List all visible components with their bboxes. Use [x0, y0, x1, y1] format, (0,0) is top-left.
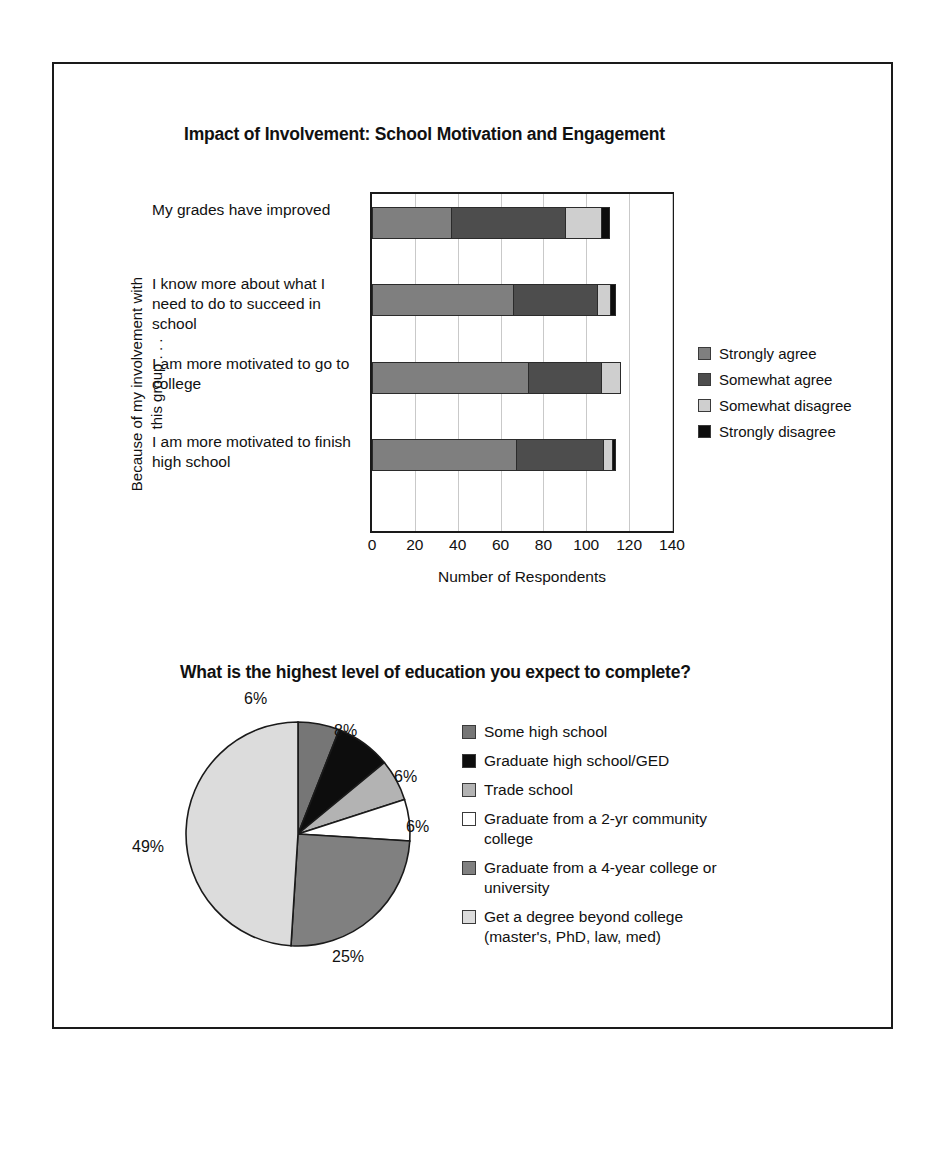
- bar-stack: [372, 362, 621, 394]
- legend-swatch-icon: [698, 425, 711, 438]
- legend-item-label: Some high school: [484, 722, 607, 742]
- pie-slice-label: 6%: [406, 818, 429, 836]
- bar-chart-plot-area: [370, 192, 674, 533]
- legend-item: Strongly agree: [698, 344, 888, 363]
- legend-swatch-icon: [698, 373, 711, 386]
- bar-segment: [372, 362, 528, 394]
- pie-chart-title: What is the highest level of education y…: [180, 662, 691, 683]
- bar-segment: [451, 207, 565, 239]
- bar-segment: [612, 439, 616, 471]
- legend-item-label: Strongly disagree: [719, 422, 836, 441]
- bar-chart-xaxis-title: Number of Respondents: [370, 568, 674, 586]
- bar-segment: [601, 207, 610, 239]
- legend-swatch-icon: [698, 347, 711, 360]
- bar-segment: [372, 439, 516, 471]
- legend-item: Somewhat agree: [698, 370, 888, 389]
- bar-category-label: I am more motivated to finish high schoo…: [152, 432, 362, 472]
- legend-item-label: Trade school: [484, 780, 573, 800]
- legend-item-label: Graduate from a 2-yr community college: [484, 809, 752, 849]
- legend-swatch-icon: [462, 812, 476, 826]
- bar-stack: [372, 207, 610, 239]
- legend-item: Graduate high school/GED: [462, 751, 752, 771]
- legend-swatch-icon: [462, 754, 476, 768]
- xaxis-tick-label: 0: [368, 536, 377, 554]
- figure-frame: Impact of Involvement: School Motivation…: [52, 62, 893, 1029]
- legend-item: Graduate from a 2-yr community college: [462, 809, 752, 849]
- bar-stack: [372, 284, 616, 316]
- bar-segment: [513, 284, 597, 316]
- xaxis-tick-label: 20: [406, 536, 423, 554]
- bar-chart-title: Impact of Involvement: School Motivation…: [184, 124, 665, 145]
- legend-item-label: Graduate high school/GED: [484, 751, 669, 771]
- bar-segment: [528, 362, 601, 394]
- legend-swatch-icon: [698, 399, 711, 412]
- xaxis-tick-label: 40: [449, 536, 466, 554]
- pie-slice-label: 25%: [332, 948, 364, 966]
- legend-item: Get a degree beyond college (master's, P…: [462, 907, 752, 947]
- legend-item: Somewhat disagree: [698, 396, 888, 415]
- bar-segment: [516, 439, 604, 471]
- xaxis-tick-label: 100: [573, 536, 599, 554]
- legend-item-label: Graduate from a 4-year college or univer…: [484, 858, 752, 898]
- xaxis-tick-label: 60: [492, 536, 509, 554]
- bar-segment: [610, 284, 616, 316]
- legend-swatch-icon: [462, 725, 476, 739]
- pie-slice-label: 8%: [334, 722, 357, 740]
- bar-stack: [372, 439, 616, 471]
- pie-chart-graphic: 6%8%6%6%25%49%: [184, 720, 412, 948]
- bar-chart-legend: Strongly agreeSomewhat agreeSomewhat dis…: [698, 344, 888, 448]
- bar-chart-category-labels: My grades have improvedI know more about…: [144, 192, 362, 533]
- bar-chart-block: Impact of Involvement: School Motivation…: [54, 64, 891, 624]
- legend-swatch-icon: [462, 910, 476, 924]
- legend-item: Strongly disagree: [698, 422, 888, 441]
- bar-category-label: My grades have improved: [152, 200, 362, 220]
- legend-swatch-icon: [462, 861, 476, 875]
- gridline-vertical: [629, 194, 630, 531]
- pie-svg: [184, 720, 412, 948]
- legend-item: Graduate from a 4-year college or univer…: [462, 858, 752, 898]
- bar-segment: [597, 284, 610, 316]
- bar-segment: [603, 439, 612, 471]
- pie-slice-label: 6%: [394, 768, 417, 786]
- legend-item-label: Get a degree beyond college (master's, P…: [484, 907, 752, 947]
- bar-segment: [372, 207, 451, 239]
- legend-item-label: Somewhat agree: [719, 370, 832, 389]
- pie-slice-label: 6%: [244, 690, 267, 708]
- pie-chart-block: What is the highest level of education y…: [54, 624, 891, 1031]
- pie-slice: [186, 722, 298, 946]
- xaxis-tick-label: 120: [616, 536, 642, 554]
- pie-chart-legend: Some high schoolGraduate high school/GED…: [462, 722, 752, 956]
- bar-segment: [601, 362, 620, 394]
- gridline-vertical: [672, 194, 673, 531]
- bar-chart-xaxis-ticks: 020406080100120140: [370, 536, 674, 560]
- legend-swatch-icon: [462, 783, 476, 797]
- pie-slice-label: 49%: [132, 838, 164, 856]
- legend-item-label: Strongly agree: [719, 344, 817, 363]
- legend-item: Trade school: [462, 780, 752, 800]
- bar-segment: [372, 284, 513, 316]
- bar-segment: [565, 207, 601, 239]
- pie-slice: [291, 834, 410, 946]
- legend-item-label: Somewhat disagree: [719, 396, 852, 415]
- xaxis-tick-label: 140: [659, 536, 685, 554]
- legend-item: Some high school: [462, 722, 752, 742]
- bar-category-label: I am more motivated to go to college: [152, 354, 362, 394]
- bar-category-label: I know more about what I need to do to s…: [152, 274, 362, 334]
- xaxis-tick-label: 80: [535, 536, 552, 554]
